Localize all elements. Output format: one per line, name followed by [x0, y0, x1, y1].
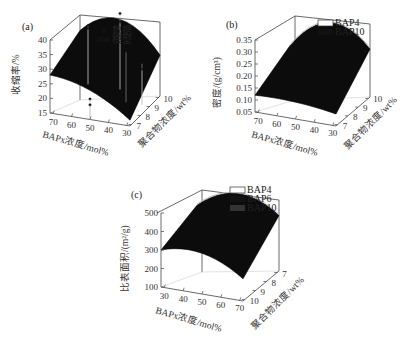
y-tick-label: 8: [146, 112, 151, 122]
panel-c-legend-label-bap10: BAP10: [247, 202, 276, 213]
y-tick-label: 7: [282, 269, 287, 279]
panel-b-floor-grid: [255, 100, 295, 112]
y-tick-label: 10: [373, 94, 383, 104]
x-tick-mark: [333, 122, 334, 125]
x-tick-label: 60: [216, 300, 226, 310]
panel-c-floor-grid: [161, 272, 202, 287]
x-tick-mark: [314, 119, 315, 122]
panel-a-legend-marker-data: [102, 29, 107, 34]
panel-c-legend-marker-bap10: [230, 205, 245, 211]
x-tick-label: 60: [272, 119, 282, 129]
panel-a: (a) 152025303540 7060504030 78910 收缩率/% …: [10, 12, 193, 158]
x-tick-mark: [164, 285, 165, 288]
x-tick-label: 70: [235, 303, 245, 313]
x-tick-mark: [221, 294, 222, 297]
panel-a-legend-label-model: 模型: [112, 33, 132, 45]
panel-c-label: (c): [131, 189, 142, 201]
z-tick-label: 35: [38, 50, 48, 60]
x-tick-mark: [240, 297, 241, 300]
panel-b-label: (b): [226, 19, 238, 31]
x-tick-label: 40: [179, 294, 189, 304]
x-tick-label: 30: [328, 128, 338, 138]
z-tick-label: 400: [145, 227, 159, 237]
x-tick-label: 40: [104, 125, 114, 135]
x-tick-label: 70: [49, 117, 59, 127]
panel-c-z-label: 比表面积/(m²/g): [119, 225, 131, 292]
z-tick-label: 0.05: [236, 107, 252, 117]
z-tick-label: 300: [145, 245, 159, 255]
z-tick-label: 100: [145, 282, 159, 292]
figure: (a) 152025303540 7060504030 78910 收缩率/% …: [0, 0, 407, 347]
y-tick-label: 9: [261, 287, 266, 297]
z-tick-label: 0.10: [236, 95, 252, 105]
x-tick-mark: [202, 291, 203, 294]
panel-c-legend-marker-bap4: [230, 187, 245, 193]
x-tick-mark: [127, 122, 128, 125]
panel-c-legend-marker-bap6: [230, 196, 245, 202]
z-tick-label: 25: [38, 79, 48, 89]
z-tick-label: 200: [145, 264, 159, 274]
y-tick-label: 7: [343, 121, 348, 131]
z-tick-label: 0.35: [236, 35, 252, 45]
y-tick-label: 9: [363, 103, 368, 113]
x-tick-label: 50: [291, 122, 301, 132]
x-tick-label: 60: [67, 120, 77, 130]
y-tick-label: 10: [164, 94, 174, 104]
z-tick-label: 0.25: [236, 59, 252, 69]
z-tick-label: 15: [38, 108, 48, 118]
z-tick-label: 30: [38, 64, 48, 74]
panel-a-label: (a): [22, 21, 33, 33]
z-tick-label: 20: [38, 93, 48, 103]
panel-c-x-label: BAPx浓度/mol%: [154, 304, 223, 333]
x-tick-mark: [277, 113, 278, 116]
x-tick-mark: [296, 116, 297, 119]
x-tick-mark: [183, 288, 184, 291]
panel-b: (b) 0.050.100.150.200.250.300.35 7060504…: [211, 16, 399, 158]
z-tick-label: 0.20: [236, 71, 252, 81]
x-tick-label: 50: [86, 123, 96, 133]
y-tick-label: 8: [271, 278, 276, 288]
x-tick-mark: [53, 111, 54, 114]
z-tick-label: 500: [145, 208, 159, 218]
x-tick-label: 40: [310, 125, 320, 135]
panel-c: (c) 100200300400500 3040506070 10987 比表面…: [119, 184, 306, 334]
x-tick-mark: [108, 119, 109, 122]
panel-b-legend-label-bap10: BAP10: [335, 26, 364, 37]
panel-b-legend-marker-bap10: [318, 29, 333, 35]
y-tick-label: 10: [250, 296, 259, 306]
z-tick-label: 40: [38, 35, 48, 45]
x-tick-label: 30: [122, 128, 132, 138]
z-tick-label: 0.30: [236, 47, 252, 57]
panel-b-legend-marker-bap4: [318, 20, 333, 26]
panel-a-z-label: 收缩率/%: [10, 54, 21, 95]
panel-b-z-label: 密度/(g/cm³): [211, 57, 223, 108]
x-tick-label: 30: [160, 291, 170, 301]
panel-a-floor-grid: [50, 100, 80, 113]
x-tick-mark: [258, 110, 259, 113]
y-tick-label: 9: [155, 103, 160, 113]
z-tick-label: 0.15: [236, 83, 252, 93]
x-tick-label: 70: [254, 116, 264, 126]
x-tick-mark: [72, 114, 73, 117]
panel-a-x-label: BAPx浓度/mol%: [41, 128, 110, 157]
y-tick-label: 8: [353, 112, 358, 122]
panel-a-legend-marker-model: [97, 37, 110, 42]
panel-b-y-label: 聚合物浓度/wt%: [342, 94, 399, 151]
x-tick-label: 50: [198, 297, 208, 307]
y-tick-label: 7: [137, 121, 142, 131]
surface-a: [50, 18, 160, 120]
